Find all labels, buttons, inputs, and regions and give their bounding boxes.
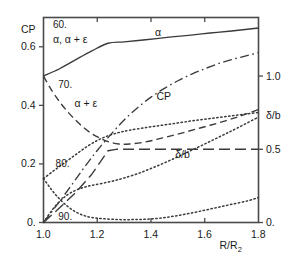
series-line-5 [44, 117, 259, 222]
annotation-2: 70. [58, 80, 72, 90]
y-axis-label-left: CP [21, 24, 36, 35]
y-tick-label-right: 0. [266, 217, 275, 228]
y-tick-label-left: 0.2 [21, 158, 36, 169]
y-tick-label-left: 0.4 [21, 100, 36, 111]
series-line-3 [44, 149, 259, 222]
x-axis-label-subscript: 2 [238, 245, 242, 254]
annotation-4: 90. [58, 212, 72, 222]
x-tick-label: 1.8 [251, 229, 266, 240]
annotation-6: CP [156, 91, 171, 102]
y-tick-label-left: 0.6 [21, 41, 36, 52]
y-axis-label-right: δ/b [266, 110, 281, 121]
x-tick-label: 1.6 [197, 229, 212, 240]
series-line-6 [44, 179, 259, 220]
annotation-5: α [155, 27, 161, 38]
x-axis-label: R/R2 [220, 240, 242, 254]
x-tick-label: 1.4 [144, 229, 159, 240]
annotation-0: 60. [53, 20, 67, 30]
y-tick-label-left: 0. [27, 217, 36, 228]
annotation-8: δ/b [175, 149, 190, 160]
annotation-7: α + ε [74, 98, 97, 109]
x-axis-label-base: R/R [220, 239, 238, 251]
x-tick-label: 1.2 [90, 229, 105, 240]
annotation-3: 80. [56, 159, 70, 169]
x-tick-label: 1.0 [36, 229, 51, 240]
y-tick-label-right: 1.0 [266, 71, 281, 82]
y-tick-label-right: 0.5 [266, 144, 281, 155]
annotation-1: α, α + ε [53, 34, 88, 45]
series-line-2 [44, 53, 259, 223]
